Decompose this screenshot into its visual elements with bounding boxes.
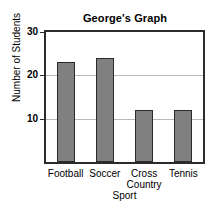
x-axis-tick-label-line: Soccer bbox=[85, 168, 124, 179]
bar-chart-figure: George's Graph Number of Students 102030… bbox=[0, 0, 216, 211]
x-axis-label: Sport bbox=[44, 190, 205, 201]
bar bbox=[135, 110, 153, 162]
bar bbox=[174, 110, 192, 162]
x-axis-tick-label: Tennis bbox=[164, 168, 203, 179]
y-axis-tick-label: 20 bbox=[12, 70, 38, 80]
x-axis-tick-label-line: Tennis bbox=[164, 168, 203, 179]
y-axis-tick-label: 10 bbox=[12, 114, 38, 124]
x-axis-tick-label-line: Cross bbox=[125, 168, 164, 179]
x-axis-tick-label: Football bbox=[46, 168, 85, 179]
y-axis-tick-label: 30 bbox=[12, 27, 38, 37]
x-axis-tick-label-line: Football bbox=[46, 168, 85, 179]
x-axis-tick-label: CrossCountry bbox=[125, 168, 164, 190]
bar bbox=[57, 62, 75, 162]
bar bbox=[96, 58, 114, 162]
chart-title: George's Graph bbox=[44, 12, 206, 24]
x-axis-tick-label-line: Country bbox=[125, 179, 164, 190]
plot-area bbox=[44, 30, 205, 164]
x-axis-tick-label: Soccer bbox=[85, 168, 124, 179]
y-axis-label: Number of Students bbox=[11, 0, 22, 118]
